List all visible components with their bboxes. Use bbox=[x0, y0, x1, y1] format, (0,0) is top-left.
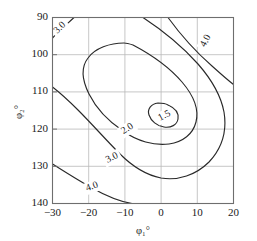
x-tick-label-20: 20 bbox=[228, 206, 240, 218]
x-tick-label-minus30: −30 bbox=[44, 206, 62, 218]
contour-plot-figure: 1.5 2.0 3.0 3.0 4.0 4.0 bbox=[0, 0, 257, 241]
y-tick-label-90: 90 bbox=[37, 10, 49, 22]
y-tick-label-120: 120 bbox=[32, 122, 49, 134]
y-tick-label-100: 100 bbox=[32, 47, 49, 59]
x-axis-tick-labels: −30 −20 −10 0 10 20 bbox=[44, 206, 240, 218]
y-tick-label-110: 110 bbox=[32, 84, 49, 96]
contour-plot-canvas: 1.5 2.0 3.0 3.0 4.0 4.0 bbox=[0, 0, 257, 241]
y-axis-tick-labels: 90 100 110 120 130 140 bbox=[32, 10, 49, 208]
x-tick-label-0: 0 bbox=[158, 206, 164, 218]
y-tick-label-130: 130 bbox=[32, 159, 49, 171]
x-tick-label-minus10: −10 bbox=[116, 206, 134, 218]
x-tick-label-minus20: −20 bbox=[80, 206, 98, 218]
x-axis-title: φ₁° bbox=[136, 225, 150, 236]
x-tick-label-10: 10 bbox=[192, 206, 204, 218]
y-axis-title: φ₂° bbox=[13, 105, 24, 119]
